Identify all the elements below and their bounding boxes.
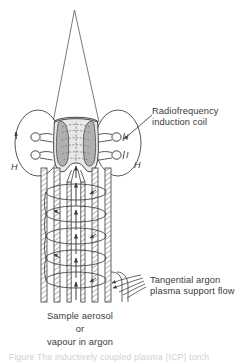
figure-caption: Figure The inductively coupled plasma (I… <box>9 352 209 362</box>
intermediate-tube-wall-left <box>54 168 60 302</box>
coil-label-line2: induction coil <box>152 117 207 128</box>
current-label-lower: I <box>126 150 129 161</box>
field-label-right: H <box>134 160 141 171</box>
coil-turn-right-upper <box>112 133 121 141</box>
sample-label-line3: vapour in argon <box>28 337 132 348</box>
tangential-label-line2: plasma support flow <box>150 286 235 297</box>
field-label-left: H <box>11 162 18 173</box>
current-label-upper: I <box>126 132 129 143</box>
coil-label-line1: Radiofrequency <box>152 106 219 117</box>
sample-label-line1: Sample aerosol <box>34 311 126 322</box>
tangential-label-line1: Tangential argon <box>150 275 220 286</box>
coil-turn-right-lower <box>112 151 121 159</box>
sample-label-line2: or <box>34 324 126 335</box>
coil-turn-left-upper <box>31 133 40 141</box>
coil-turn-left-lower <box>31 151 40 159</box>
